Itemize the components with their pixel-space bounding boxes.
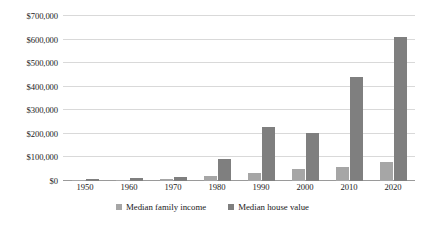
bar-group	[371, 16, 415, 181]
y-axis-tick-label: $500,000	[2, 59, 58, 68]
bar-group	[283, 16, 327, 181]
bar-income-1950	[72, 180, 85, 181]
y-axis-tick-label: $400,000	[2, 83, 58, 92]
chart-legend: Median family incomeMedian house value	[0, 203, 425, 212]
x-axis-tick-label: 1960	[107, 183, 151, 192]
x-axis-tick-label: 2000	[283, 183, 327, 192]
bar-income-2000	[292, 169, 305, 181]
bar-income-2020	[380, 162, 393, 181]
bar-group	[327, 16, 371, 181]
bar-chart: $0$100,000$200,000$300,000$400,000$500,0…	[0, 0, 425, 229]
x-axis-tick-label: 1970	[151, 183, 195, 192]
bar-group	[239, 16, 283, 181]
bar-group	[151, 16, 195, 181]
legend-swatch-icon	[116, 204, 122, 210]
bar-group	[63, 16, 107, 181]
bar-group	[195, 16, 239, 181]
bar-house-1950	[86, 179, 99, 181]
x-axis-labels: 19501960197019801990200020102020	[63, 183, 415, 192]
legend-label: Median family income	[126, 203, 206, 212]
y-axis-tick-label: $600,000	[2, 36, 58, 45]
y-axis-tick-label: $0	[2, 177, 58, 186]
bar-income-1980	[204, 176, 217, 181]
y-axis-tick-label: $200,000	[2, 130, 58, 139]
bar-house-1960	[130, 178, 143, 181]
bar-house-2020	[394, 37, 407, 181]
bar-house-1980	[218, 159, 231, 181]
bar-house-2010	[350, 77, 363, 181]
x-axis-tick-label: 2010	[327, 183, 371, 192]
legend-item: Median family income	[116, 203, 206, 212]
bar-income-1970	[160, 179, 173, 181]
y-axis-tick-label: $700,000	[2, 12, 58, 21]
x-axis-tick-label: 1950	[63, 183, 107, 192]
bar-house-2000	[306, 133, 319, 181]
legend-item: Median house value	[228, 203, 309, 212]
x-axis-tick-label: 2020	[371, 183, 415, 192]
y-axis-tick-label: $100,000	[2, 153, 58, 162]
legend-label: Median house value	[238, 203, 309, 212]
bar-income-1960	[116, 180, 129, 181]
x-axis-tick-label: 1990	[239, 183, 283, 192]
plot-area	[63, 16, 415, 181]
x-axis-tick-label: 1980	[195, 183, 239, 192]
bar-house-1970	[174, 177, 187, 181]
bar-income-2010	[336, 167, 349, 181]
bar-groups	[63, 16, 415, 181]
bar-income-1990	[248, 173, 261, 181]
legend-swatch-icon	[228, 204, 234, 210]
y-axis-tick-label: $300,000	[2, 106, 58, 115]
bar-group	[107, 16, 151, 181]
bar-house-1990	[262, 127, 275, 181]
